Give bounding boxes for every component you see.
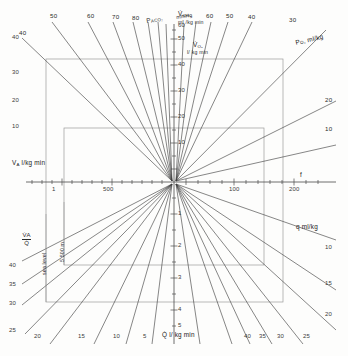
qcontent-value-40: 40 [244,333,251,339]
nomogram-canvas [0,0,348,356]
va-q-denominator: Q̇ [22,240,31,246]
qcontent-value-20: 20 [325,311,332,317]
q-content-family-label: q ml/kg [296,224,318,230]
q-tick-4: 4 [178,306,182,312]
va-tick-20: 20 [12,97,19,103]
vaq-value-35: 35 [9,281,16,287]
po2-line-10 [176,145,336,181]
qcontent-line-30 [176,184,272,344]
vo2-tick-60: 60 [178,22,185,28]
vaq-value-20: 20 [34,333,41,339]
q-tick-3: 3 [178,274,182,280]
paco2-value-60: 60 [87,13,94,19]
left-tick-1: 1 [52,186,56,192]
paco2-value-40: 40 [19,30,26,36]
va-q-numerator: V̇A [22,232,31,238]
q-tick-1: 1 [178,210,182,216]
vaq-value-30: 30 [9,300,16,306]
nomogram-figure: 40 50 60 70 80 PACO₂ mmHg 10 20 30 40 VA… [0,0,348,356]
qcontent-line-25 [176,184,303,344]
f-tick-200: 200 [289,186,300,192]
qcontent-line-10 [176,184,336,240]
vo2-tick-50: 50 [178,35,185,41]
qcontent-value-15: 15 [325,280,332,286]
paco2-line-70 [113,22,172,181]
vaq-value-25: 25 [9,327,16,333]
vaq-line-40 [22,184,172,261]
qcontent-line-40 [176,184,232,344]
q-axis-label: Q̇ l/ kg min [162,332,195,338]
po2-value-20: 20 [325,97,332,103]
vaq-value-10: 10 [113,333,120,339]
po2-value-60: 60 [206,13,213,19]
va-q-ratio-label: V̇A Q̇ [22,232,31,247]
po2-value-10: 10 [325,126,332,132]
q-tick-5: 5 [178,322,182,328]
q-content-fan-lines [176,184,336,344]
vo2-tick-20: 20 [178,113,185,119]
qcontent-value-30: 30 [277,333,284,339]
paco2-line-50 [52,22,172,181]
altitude-annotation: 5 500 m [60,242,65,262]
po2-value-40: 40 [248,14,255,20]
paco2-value-80: 80 [132,15,139,21]
po2-line-40 [176,22,252,181]
va-axis-label: VA l/kg min [12,160,45,167]
qcontent-line-35 [176,184,250,344]
paco2-line-aux-3 [166,24,172,181]
vaq-line-5 [152,184,172,344]
qcontent-value-35: 35 [259,333,266,339]
f-tick-100: 100 [229,186,240,192]
paco2-fan-lines [22,22,172,181]
po2-value-30: 30 [289,17,296,23]
va-tick-10: 10 [12,123,19,129]
vo2-secondary-label: V̇O₂ [193,42,203,49]
va-tick-40: 40 [12,34,19,40]
qcontent-line-aux [176,184,200,344]
vaq-value-5: 5 [143,333,147,339]
vaq-line-30 [22,184,172,305]
paco2-line-60 [88,22,172,181]
sea-level-annotation: sea level [42,253,47,275]
va-tick-30: 30 [12,69,19,75]
paco2-line-80 [133,22,172,181]
f-axis-label: f [300,172,302,178]
vaq-value-40: 40 [9,262,16,268]
paco2-value-50: 50 [50,13,57,19]
left-tick-500: 500 [103,186,114,192]
po2-line-20 [176,101,336,181]
q-tick-2: 2 [178,242,182,248]
axis-lines [26,24,336,344]
vaq-line-20 [50,184,172,344]
vaq-value-15: 15 [78,333,85,339]
qcontent-value-10: 10 [325,244,332,250]
qcontent-line-20 [176,184,336,330]
qcontent-line-15 [176,184,336,290]
po2-line-aux-2 [176,24,184,181]
vo2-tick-30: 30 [178,87,185,93]
vo2-tick-10: 10 [178,139,185,145]
po2-value-50: 50 [226,13,233,19]
paco2-value-70: 70 [112,14,119,20]
vo2-secondary-units: l/ kg min [187,50,208,55]
vo2-tick-40: 40 [178,61,185,67]
qcontent-value-25: 25 [303,333,310,339]
vo2-axis-label-line1: V̇CO₂ [178,11,191,18]
